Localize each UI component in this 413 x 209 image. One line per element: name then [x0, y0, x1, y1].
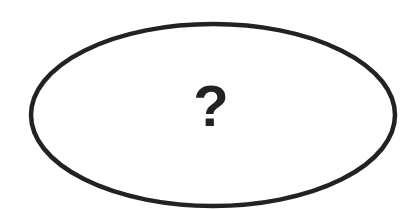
question-mark-label: ?	[193, 78, 229, 134]
